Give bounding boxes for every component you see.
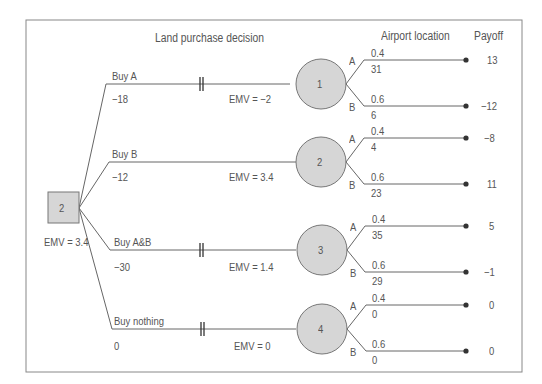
outcome-value: 29	[372, 275, 383, 287]
outcome-prob: 0.6	[372, 338, 385, 350]
payoff-value: −12	[481, 100, 497, 112]
payoff-value: 0	[489, 299, 494, 311]
chance-node-label-1: 1	[317, 78, 322, 90]
branch-name-buy-nothing: Buy nothing	[114, 315, 164, 327]
branch-cost-buy-nothing: 0	[114, 340, 119, 352]
outcome-prob: 0.6	[371, 93, 384, 105]
outcome-value: 35	[372, 229, 383, 241]
chance-node-label-3: 3	[318, 244, 323, 256]
outcome-value: 0	[372, 354, 377, 366]
outcome-value: 4	[371, 141, 376, 153]
payoff-value: −8	[484, 132, 495, 144]
outcome-prob: 0.4	[371, 47, 384, 59]
terminal-dots	[463, 57, 468, 353]
payoff-value: 5	[489, 220, 494, 232]
branch-cost-buy-a: −18	[112, 93, 128, 105]
outcome-value: 0	[372, 308, 377, 320]
branch-emv-buy-b: EMV = 3.4	[229, 171, 273, 183]
payoff-value: −1	[484, 266, 495, 278]
chance-node-label-4: 4	[318, 323, 323, 335]
outcome-value: 23	[371, 187, 382, 199]
branch-emv-buy-ab: EMV = 1.4	[229, 261, 273, 273]
branch-emv-buy-a: EMV = −2	[229, 93, 271, 105]
outcome-label: B	[349, 101, 355, 113]
diagram-frame	[26, 20, 522, 372]
payoff-value: 11	[487, 178, 497, 190]
branch-emv-buy-nothing: EMV = 0	[234, 340, 271, 352]
root-connectors	[79, 84, 296, 329]
outcome-prob: 0.4	[372, 292, 385, 304]
chance-node-label-2: 2	[317, 156, 322, 168]
payoff-value: 13	[487, 54, 498, 66]
header-chance: Airport location	[381, 30, 450, 42]
outcome-branches	[346, 60, 466, 351]
outcome-prob: 0.4	[371, 125, 384, 137]
chance-nodes	[296, 59, 347, 354]
outcome-label: A	[349, 133, 355, 145]
root-node-label: 2	[59, 202, 64, 214]
root-emv: EMV = 3.4	[44, 236, 88, 248]
outcome-prob: 0.6	[371, 171, 384, 183]
header-decision: Land purchase decision	[155, 32, 264, 44]
outcome-value: 31	[371, 63, 382, 75]
outcome-prob: 0.6	[372, 259, 385, 271]
branch-cost-buy-ab: −30	[114, 261, 130, 273]
outcome-label: B	[350, 267, 356, 279]
decision-tree-graphic	[0, 0, 542, 384]
prune-marks	[200, 77, 204, 336]
outcome-label: A	[349, 55, 355, 67]
header-payoff: Payoff	[474, 30, 503, 42]
branch-cost-buy-b: −12	[112, 171, 128, 183]
branch-name-buy-ab: Buy A&B	[114, 236, 151, 248]
outcome-label: B	[350, 346, 356, 358]
outcome-value: 6	[371, 109, 376, 121]
outcome-label: A	[350, 221, 356, 233]
outcome-prob: 0.4	[372, 213, 385, 225]
outcome-label: B	[349, 179, 355, 191]
outcome-label: A	[350, 300, 356, 312]
payoff-value: 0	[489, 345, 494, 357]
branch-name-buy-b: Buy B	[112, 148, 137, 160]
branch-name-buy-a: Buy A	[112, 70, 137, 82]
